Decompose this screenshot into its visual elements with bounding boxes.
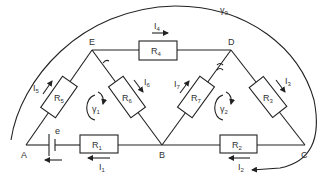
node-b-label: B: [159, 150, 165, 160]
current-i3-label: I3: [285, 76, 292, 87]
loop-gamma2-label: γ2: [220, 104, 229, 115]
loop-gamma1-arrow: [98, 92, 103, 104]
circuit-diagram: γ3 R4 I4 E D A B C R5 I5 R6 I6 R7 I7 R3 …: [0, 0, 327, 180]
node-e-label: E: [89, 37, 95, 47]
current-i7-label: I7: [174, 79, 181, 90]
current-i4-label: I4: [154, 21, 161, 32]
current-i5-arrow: [43, 81, 52, 94]
node-d-label: D: [228, 37, 235, 47]
junction-mark-e: [103, 60, 109, 63]
loop-gamma3-label: γ3: [220, 5, 229, 16]
current-i2-label: I2: [238, 162, 245, 173]
loop-gamma1-label: γ1: [92, 104, 101, 115]
node-a-label: A: [21, 150, 27, 160]
source-e-label: e: [55, 126, 60, 136]
current-i6-arrow: [134, 80, 143, 92]
current-i6-label: I6: [144, 77, 151, 88]
loop-gamma2-arrow: [226, 92, 231, 104]
current-i3-arrow: [276, 80, 285, 92]
current-i7-arrow: [180, 81, 189, 93]
node-c-label: C: [301, 150, 308, 160]
current-i1-label: I1: [99, 162, 106, 173]
current-i5-label: I5: [33, 83, 40, 94]
